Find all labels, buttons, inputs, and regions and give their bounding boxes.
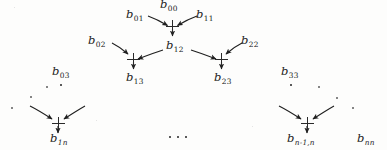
scan-speck [14,7,15,8]
adder-node-far-right [301,117,314,130]
label-b23: b23 [214,72,231,84]
edge-b02-to-left-node [112,43,128,54]
ellipsis-vertical-right [290,84,296,94]
ellipsis-vertical-left [60,84,66,94]
figure-canvas: b00 b01 b11 b02 b12 b22 b13 b23 b03 b33 … [0,0,387,150]
label-b01: b01 [126,9,143,21]
label-b03: b03 [52,66,69,78]
ellipsis-diagonal-right [316,86,356,114]
edge-unlabeled-to-far-left-node-b [64,106,85,119]
edge-b01-to-root [148,16,168,26]
adder-node-root [166,20,179,33]
edge-b11-to-root [178,16,198,26]
label-bn-1-n: bn-1,n [287,133,315,145]
edge-unlabeled-to-far-right-node-a [279,106,301,119]
edge-b12-to-left-node [138,50,163,59]
label-b1n: b1n [50,133,67,145]
label-bnn: bnn [357,133,374,145]
label-b12: b12 [166,40,183,52]
scan-speck [252,126,253,127]
adder-node-far-left [52,117,65,130]
ellipsis-bottom-center [169,136,195,140]
label-b13: b13 [126,72,143,84]
scan-speck [96,120,97,121]
edge-b22-to-right-node [226,43,242,54]
ellipsis-diagonal-left [8,86,48,114]
label-b33: b33 [281,66,298,78]
adder-node-left [127,53,140,66]
label-b02: b02 [88,35,105,47]
label-b00: b00 [160,0,177,11]
label-b11: b11 [196,9,213,21]
adder-node-right [215,53,228,66]
label-b22: b22 [241,35,258,47]
edge-b12-to-right-node [191,50,216,59]
